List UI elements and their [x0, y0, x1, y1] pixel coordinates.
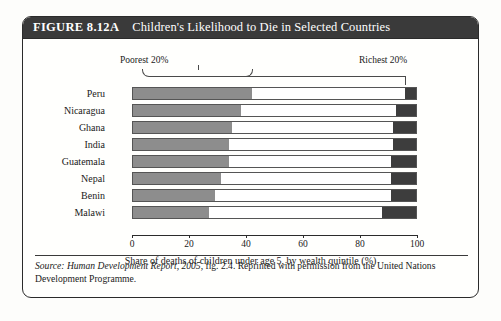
- figure-box: FIGURE 8.12A Children's Likelihood to Di…: [22, 16, 479, 298]
- table-row: Nepal: [23, 170, 478, 186]
- stacked-bar: [132, 138, 417, 152]
- bar-segment-poorest: [133, 190, 215, 202]
- bar-segment-middle: [241, 105, 397, 117]
- stacked-bar: [132, 121, 417, 135]
- bar-segment-richest: [393, 139, 416, 151]
- bar-segment-richest: [382, 207, 416, 219]
- bracket-tick: [198, 65, 199, 70]
- bar-segment-richest: [405, 88, 416, 100]
- bar-segment-middle: [209, 207, 382, 219]
- bar-segment-richest: [391, 156, 416, 168]
- country-label: Ghana: [23, 119, 111, 135]
- bar-segment-richest: [393, 122, 416, 134]
- richest-leader-line-horizontal: [203, 76, 406, 77]
- bar-segment-poorest: [133, 139, 229, 151]
- x-axis-tick-label: 80: [355, 239, 365, 249]
- x-axis-tick-label: 60: [298, 239, 308, 249]
- table-row: Guatemala: [23, 153, 478, 169]
- table-row: Benin: [23, 187, 478, 203]
- country-label: Nepal: [23, 170, 111, 186]
- table-row: Ghana: [23, 119, 478, 135]
- country-label: Benin: [23, 187, 111, 203]
- x-axis-line: [132, 235, 417, 236]
- bar-segment-poorest: [133, 207, 209, 219]
- bar-rows: PeruNicaraguaGhanaIndiaGuatemalaNepalBen…: [23, 85, 478, 221]
- bar-segment-middle: [229, 139, 393, 151]
- figure-page: FIGURE 8.12A Children's Likelihood to Di…: [0, 0, 501, 321]
- bar-segment-middle: [221, 173, 391, 185]
- x-axis-tick-label: 100: [410, 239, 424, 249]
- bar-segment-richest: [391, 173, 416, 185]
- richest-leader-line-vertical: [405, 76, 406, 85]
- stacked-bar: [132, 87, 417, 101]
- x-axis-tick: [246, 235, 247, 238]
- bar-segment-middle: [215, 190, 390, 202]
- richest-annotation-label: Richest 20%: [359, 55, 407, 65]
- poorest-annotation-label: Poorest 20%: [120, 55, 168, 65]
- stacked-bar: [132, 189, 417, 203]
- source-note: Source: Human Development Report, 2005, …: [35, 260, 455, 285]
- figure-number: FIGURE 8.12A: [33, 20, 119, 35]
- table-row: Nicaragua: [23, 102, 478, 118]
- bar-segment-poorest: [133, 122, 232, 134]
- x-axis-tick: [360, 235, 361, 238]
- x-axis-tick: [132, 235, 133, 238]
- country-label: Malawi: [23, 204, 111, 220]
- x-axis-tick: [189, 235, 190, 238]
- bar-segment-poorest: [133, 88, 252, 100]
- bar-segment-richest: [396, 105, 416, 117]
- plot-area: Poorest 20% Richest 20% PeruNicaraguaGha…: [23, 39, 478, 249]
- figure-header: FIGURE 8.12A Children's Likelihood to Di…: [23, 17, 478, 39]
- country-label: Peru: [23, 85, 111, 101]
- x-axis-tick: [417, 235, 418, 238]
- stacked-bar: [132, 206, 417, 220]
- bar-segment-richest: [391, 190, 416, 202]
- stacked-bar: [132, 172, 417, 186]
- bar-segment-middle: [229, 156, 390, 168]
- bar-segment-poorest: [133, 105, 241, 117]
- x-axis-tick-label: 0: [130, 239, 135, 249]
- bar-segment-middle: [252, 88, 405, 100]
- source-label: Source:: [35, 260, 64, 271]
- country-label: Guatemala: [23, 153, 111, 169]
- bar-segment-poorest: [133, 173, 221, 185]
- stacked-bar: [132, 155, 417, 169]
- bar-segment-poorest: [133, 156, 229, 168]
- table-row: Peru: [23, 85, 478, 101]
- x-axis-tick-label: 40: [241, 239, 251, 249]
- table-row: Malawi: [23, 204, 478, 220]
- country-label: Nicaragua: [23, 102, 111, 118]
- x-axis-tick: [303, 235, 304, 238]
- figure-title: Children's Likelihood to Die in Selected…: [132, 20, 390, 35]
- x-axis: 020406080100: [132, 235, 417, 253]
- source-divider: [35, 255, 468, 256]
- table-row: India: [23, 136, 478, 152]
- x-axis-tick-label: 20: [184, 239, 194, 249]
- bar-segment-middle: [232, 122, 393, 134]
- source-citation: Human Development Report, 2005,: [67, 260, 203, 271]
- country-label: India: [23, 136, 111, 152]
- stacked-bar: [132, 104, 417, 118]
